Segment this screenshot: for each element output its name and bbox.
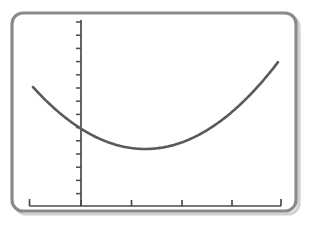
parabola-plot bbox=[0, 0, 309, 230]
screenshot-root bbox=[0, 0, 309, 230]
rounded-border-frame bbox=[12, 13, 296, 211]
graph-figure bbox=[0, 0, 309, 230]
